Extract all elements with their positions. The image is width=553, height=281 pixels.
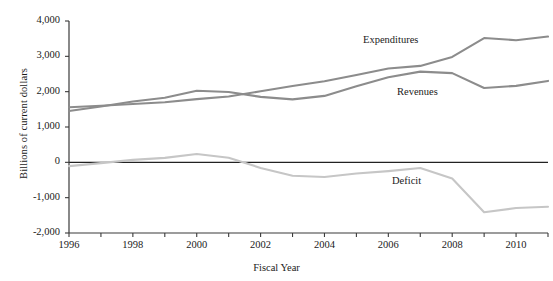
chart-figure: Billions of current dollars Fiscal Year … xyxy=(0,0,553,281)
plot-area xyxy=(0,0,553,281)
series-line-revenues xyxy=(69,72,548,111)
